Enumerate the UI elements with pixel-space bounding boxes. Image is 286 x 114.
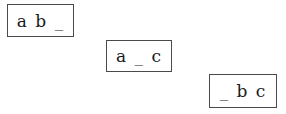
pattern-label: _ b c <box>220 81 267 101</box>
pattern-label: a b _ <box>17 11 64 31</box>
pattern-box-1: a b _ <box>7 4 74 37</box>
pattern-label: a _ c <box>116 46 162 66</box>
pattern-box-3: _ b c <box>209 74 277 108</box>
pattern-box-2: a _ c <box>106 40 172 72</box>
